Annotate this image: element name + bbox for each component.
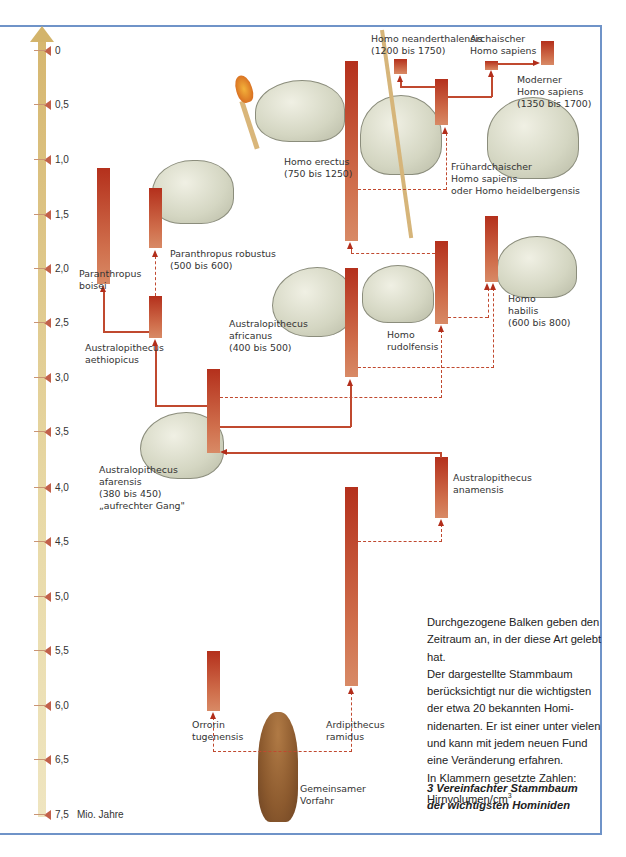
dashed-connector	[441, 524, 442, 542]
triangle-marker-icon	[44, 373, 51, 383]
figure-caption: 3 Vereinfachter Stammbaum der wichtigste…	[427, 780, 602, 814]
bar-paranthropus-boisei	[97, 168, 110, 284]
label-common-ancestor: GemeinsamerVorfahr	[300, 783, 366, 807]
label-homo-rudolfensis: Homorudolfensis	[387, 329, 438, 353]
arrow-up-icon	[438, 519, 444, 526]
triangle-marker-icon	[44, 100, 51, 110]
dashed-connector	[358, 367, 494, 368]
figure-description: Durchgezogene Balken geben den Zeitraum …	[427, 614, 602, 808]
label-ardipithecus-ramidus: Ardipithecusramidus	[326, 719, 385, 743]
axis-tick: 2,0	[34, 263, 69, 275]
bar-australopithecus-anamensis	[435, 457, 448, 518]
arrow-up-icon	[488, 70, 494, 77]
axis-tick: 3,0	[34, 372, 69, 384]
arrow-up-icon	[210, 712, 216, 719]
skull-habilis-icon	[497, 236, 577, 298]
arrow-up-icon	[442, 127, 448, 134]
axis-tick: 5,0	[34, 591, 69, 603]
description-paragraph: Der dargestellte Stammbaum berücksichtig…	[427, 666, 602, 770]
bar-homo-erectus	[345, 61, 358, 241]
triangle-marker-icon	[44, 537, 51, 547]
triangle-marker-icon	[44, 701, 51, 711]
dashed-connector	[488, 288, 489, 318]
arrow-up-icon	[347, 379, 353, 386]
bar-homo-neanderthalensis	[394, 59, 407, 74]
connector-line	[350, 385, 352, 427]
dashed-connector	[448, 317, 488, 318]
arrow-left-icon	[220, 449, 227, 455]
connector-line	[226, 452, 441, 454]
connector-line	[103, 290, 105, 332]
label-homo-erectus: Homo erectus(750 bis 1250)	[284, 156, 352, 180]
axis-unit-label: Mio. Jahre	[77, 809, 124, 820]
dashed-connector	[493, 288, 494, 368]
bar-homo-rudolfensis	[435, 241, 448, 324]
label-modern-homo-sapiens: ModernerHomo sapiens(1350 bis 1700)	[517, 74, 591, 110]
bar-early-archaic-sapiens	[435, 79, 448, 125]
connector-line	[498, 63, 534, 65]
bar-modern-homo-sapiens	[541, 41, 554, 65]
arrow-up-icon	[30, 26, 54, 42]
dashed-connector	[220, 397, 442, 398]
skull-erectus-icon	[255, 80, 345, 142]
label-archaic-homo-sapiens: ArchaischerHomo sapiens	[470, 33, 536, 57]
connector-line	[491, 76, 493, 97]
common-ancestor-figure-icon	[258, 712, 298, 822]
triangle-marker-icon	[44, 210, 51, 220]
triangle-marker-icon	[44, 646, 51, 656]
bar-paranthropus-robustus	[149, 188, 162, 248]
triangle-marker-icon	[44, 318, 51, 328]
connector-line	[440, 452, 442, 458]
dashed-connector	[155, 256, 156, 296]
connector-line	[103, 331, 149, 333]
axis-tick: 1,0	[34, 154, 69, 166]
triangle-marker-icon	[44, 810, 51, 820]
triangle-marker-icon	[44, 483, 51, 493]
axis-tick: 4,5	[34, 536, 69, 548]
arrow-up-icon	[397, 75, 403, 82]
triangle-marker-icon	[44, 427, 51, 437]
axis-tick: 1,5	[34, 209, 69, 221]
axis-tick: 0	[34, 45, 61, 57]
bar-archaic-homo-sapiens	[485, 61, 498, 70]
label-early-archaic-sapiens: FrühardchaischerHomo sapiensoder Homo he…	[451, 161, 580, 197]
triangle-marker-icon	[44, 755, 51, 765]
label-australopithecus-afarensis: Australopithecusafarensis(380 bis 450)„a…	[99, 464, 185, 512]
description-paragraph: Durchgezogene Balken geben den Zeitraum …	[427, 614, 602, 666]
arrow-up-icon	[152, 250, 158, 257]
dashed-connector	[358, 541, 442, 542]
arrow-up-icon	[438, 325, 444, 332]
connector-line	[400, 86, 436, 88]
axis-tick: 3,5	[34, 426, 69, 438]
arrow-up-icon	[347, 242, 353, 249]
bar-australopithecus-afarensis	[207, 369, 220, 453]
label-orrorin-tugenensis: Orrorintugenensis	[192, 719, 243, 743]
dashed-connector	[358, 189, 446, 190]
dashed-connector	[351, 253, 435, 254]
connector-line	[220, 426, 351, 428]
label-australopithecus-aethiopicus: Australopithecusaethiopicus	[85, 342, 164, 366]
dashed-connector	[446, 133, 447, 190]
label-paranthropus-robustus: Paranthropus robustus(500 bis 600)	[170, 248, 276, 272]
connector-line	[155, 405, 207, 407]
axis-tick: 0,5	[34, 99, 69, 111]
label-homo-neanderthalensis: Homo neanderthalensis(1200 bis 1750)	[371, 33, 483, 57]
label-australopithecus-africanus: Australopithecusafricanus(400 bis 500)	[229, 318, 308, 354]
skull-rudolfensis-icon	[362, 265, 434, 323]
axis-tick: 5,5	[34, 645, 69, 657]
triangle-marker-icon	[44, 592, 51, 602]
bar-australopithecus-africanus	[345, 268, 358, 377]
label-homo-habilis: Homohabilis(600 bis 800)	[508, 293, 571, 329]
dashed-connector	[441, 330, 442, 398]
skull-robustus-icon	[152, 160, 234, 224]
axis-tick: 6,5	[34, 754, 69, 766]
label-australopithecus-anamensis: Australopithecusanamensis	[453, 472, 532, 496]
axis-tick: 7,5Mio. Jahre	[34, 809, 124, 821]
connector-line	[448, 96, 492, 98]
label-paranthropus-boisei: Paranthropusboisei	[79, 268, 141, 292]
dashed-connector	[213, 751, 352, 752]
axis-tick: 6,0	[34, 700, 69, 712]
bar-ardipithecus-ramidus	[345, 487, 358, 686]
arrow-up-icon	[490, 283, 496, 290]
axis-tick: 4,0	[34, 482, 69, 494]
